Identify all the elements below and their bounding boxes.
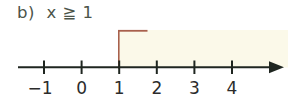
tick-label: 1 — [114, 78, 125, 98]
tick-label: 0 — [76, 78, 87, 98]
axis-tick-labels: −1 0 1 2 3 4 — [27, 78, 237, 98]
tick-label: 2 — [151, 78, 162, 98]
solution-region-shading — [119, 30, 289, 68]
numberline-plot: −1 0 1 2 3 4 — [0, 0, 288, 102]
tick-label: −1 — [27, 78, 52, 98]
numberline-figure: b) x ≧ 1 −1 0 1 2 3 4 — [0, 0, 288, 102]
tick-label: 3 — [189, 78, 200, 98]
tick-label: 4 — [227, 78, 238, 98]
